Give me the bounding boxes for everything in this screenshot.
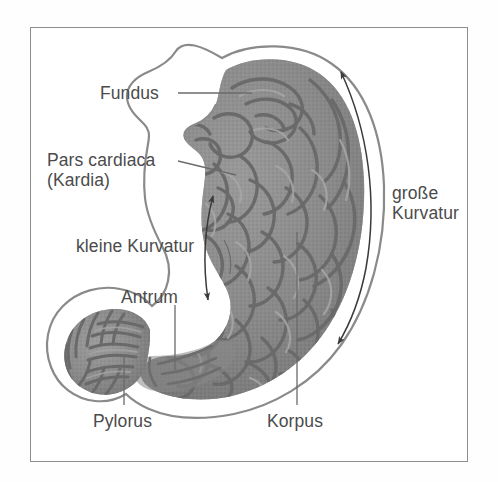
label-fundus: Fundus <box>100 83 159 103</box>
label-pars-cardiaca: Pars cardiaca (Kardia) <box>47 150 155 190</box>
label-pars-cardiaca-line2: (Kardia) <box>47 170 155 190</box>
label-pylorus: Pylorus <box>93 411 152 431</box>
label-grosse-kurvatur-line2: Kurvatur <box>392 203 459 223</box>
label-kleine-kurvatur: kleine Kurvatur <box>76 236 194 256</box>
stomach-illustration <box>0 0 498 482</box>
label-grosse-kurvatur: große Kurvatur <box>392 183 459 223</box>
label-antrum: Antrum <box>121 287 178 307</box>
figure-page: Fundus Pars cardiaca (Kardia) kleine Kur… <box>0 0 498 482</box>
label-pars-cardiaca-line1: Pars cardiaca <box>47 150 155 170</box>
label-grosse-kurvatur-line1: große <box>392 183 459 203</box>
label-korpus: Korpus <box>267 411 323 431</box>
